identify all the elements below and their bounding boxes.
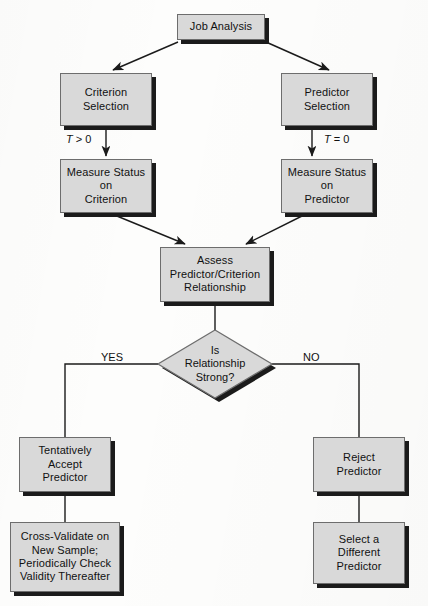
node-tentatively-accept-predictor[interactable]: Tentatively Accept Predictor xyxy=(19,437,111,492)
node-is-relationship-strong[interactable]: Is Relationship Strong? xyxy=(158,330,272,398)
edge-decision-yes xyxy=(65,364,158,437)
node-reject-predictor[interactable]: Reject Predictor xyxy=(313,437,405,492)
edge-measure-criterion-to-assess xyxy=(112,214,185,244)
node-predictor-selection[interactable]: Predictor Selection xyxy=(281,73,373,126)
node-assess-predictor-criterion-relationship[interactable]: Assess Predictor/Criterion Relationship xyxy=(160,247,270,302)
edge-job-to-predictor xyxy=(266,42,329,70)
node-measure-status-on-criterion[interactable]: Measure Status on Criterion xyxy=(60,159,152,213)
edge-decision-no xyxy=(272,364,359,437)
diamond-label: Is Relationship Strong? xyxy=(158,330,272,398)
t-variable-right: T xyxy=(324,133,331,145)
edge-label-no: NO xyxy=(303,351,320,363)
node-cross-validate-new-sample[interactable]: Cross-Validate on New Sample; Periodical… xyxy=(10,522,120,592)
edge-measure-predictor-to-assess xyxy=(246,214,306,244)
node-job-analysis[interactable]: Job Analysis xyxy=(177,14,265,40)
node-select-different-predictor[interactable]: Select a Different Predictor xyxy=(313,522,405,584)
edge-job-to-criterion xyxy=(113,42,178,70)
edge-label-yes: YES xyxy=(101,351,123,363)
edge-label-t-equals-zero: T = 0 xyxy=(324,133,349,145)
t-relation-left: > 0 xyxy=(73,133,92,145)
node-criterion-selection[interactable]: Criterion Selection xyxy=(60,73,152,126)
node-measure-status-on-predictor[interactable]: Measure Status on Predictor xyxy=(281,159,373,213)
t-variable-left: T xyxy=(66,133,73,145)
flowchart-canvas: Job Analysis Criterion Selection Predict… xyxy=(0,0,428,606)
t-relation-right: = 0 xyxy=(331,133,350,145)
edge-label-t-greater-than-zero: T > 0 xyxy=(66,133,91,145)
